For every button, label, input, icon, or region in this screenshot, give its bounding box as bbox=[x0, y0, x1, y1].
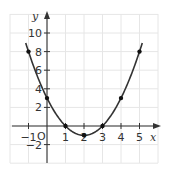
y-axis-label: y bbox=[31, 10, 39, 23]
data-point bbox=[100, 124, 104, 128]
data-point bbox=[137, 49, 141, 53]
x-axis-arrow-icon bbox=[153, 123, 161, 129]
parabola-chart: −112345−2246810 x y O bbox=[0, 0, 169, 175]
y-tick-label: 8 bbox=[35, 46, 42, 59]
y-axis-arrow-icon bbox=[44, 11, 50, 19]
x-tick-label: 3 bbox=[99, 131, 106, 144]
data-point bbox=[119, 96, 123, 100]
origin-label: O bbox=[37, 130, 46, 143]
data-point bbox=[63, 124, 67, 128]
data-point bbox=[26, 49, 30, 53]
y-tick-label: 2 bbox=[35, 101, 42, 114]
x-tick-label: 1 bbox=[62, 131, 69, 144]
x-tick-label: 4 bbox=[118, 131, 125, 144]
y-tick-label: 10 bbox=[28, 27, 42, 40]
x-tick-label: 5 bbox=[136, 131, 143, 144]
data-point bbox=[82, 133, 86, 137]
data-point bbox=[45, 96, 49, 100]
x-axis-label: x bbox=[150, 131, 157, 144]
